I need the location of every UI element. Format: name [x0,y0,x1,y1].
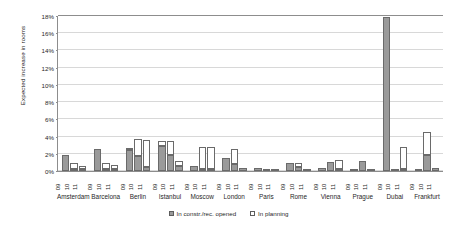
bar-segment-in-construction[interactable] [335,169,343,171]
bar-segment-in-planning[interactable] [143,140,151,167]
bar-segment-in-construction[interactable] [423,155,431,171]
bar-segment-in-construction[interactable] [70,169,78,171]
bar-stack[interactable] [175,17,183,171]
bar-stack[interactable] [190,17,198,171]
bar-stack[interactable] [432,17,440,171]
bar-segment-in-construction[interactable] [295,167,303,171]
bar-segment-in-planning[interactable] [400,147,408,169]
bar-segment-in-construction[interactable] [102,169,110,171]
legend: In constr./rec. openedIn planning [0,210,457,217]
bar-segment-in-construction[interactable] [239,168,247,171]
bar-stack[interactable] [134,17,142,171]
city-label: Prague [347,193,379,200]
city-label: Frankfurt [411,193,443,200]
bar-stack[interactable] [367,17,375,171]
city-label: London [218,193,250,200]
bar-stack[interactable] [383,17,391,171]
bar-stack[interactable] [400,17,408,171]
y-tick-label: 8% [45,99,54,106]
bar-stack[interactable] [239,17,247,171]
bar-segment-in-planning[interactable] [423,132,431,154]
bar-segment-in-construction[interactable] [111,169,119,171]
bar-segment-in-construction[interactable] [400,169,408,171]
bar-stack[interactable] [79,17,87,171]
bar-segment-in-construction[interactable] [62,155,70,171]
legend-item[interactable]: In constr./rec. opened [169,210,237,217]
bar-segment-in-construction[interactable] [167,155,175,171]
legend-item[interactable]: In planning [250,210,288,217]
bar-stack[interactable] [263,17,271,171]
bar-group [411,17,443,171]
bar-segment-in-construction[interactable] [143,167,151,171]
bar-segment-in-construction[interactable] [271,169,279,171]
bar-group [218,17,250,171]
bar-segment-in-construction[interactable] [222,158,230,171]
bar-stack[interactable] [70,17,78,171]
legend-label: In constr./rec. opened [177,210,237,217]
bar-segment-in-construction[interactable] [303,169,311,171]
bar-stack[interactable] [94,17,102,171]
bar-stack[interactable] [303,17,311,171]
bar-segment-in-construction[interactable] [391,169,399,171]
bar-segment-in-planning[interactable] [134,139,142,155]
bar-stack[interactable] [327,17,335,171]
bar-segment-in-planning[interactable] [207,147,215,169]
bar-stack[interactable] [286,17,294,171]
bar-segment-in-construction[interactable] [415,169,423,171]
bar-stack[interactable] [391,17,399,171]
bar-stack[interactable] [350,17,358,171]
bar-segment-in-planning[interactable] [167,141,175,155]
bar-segment-in-construction[interactable] [126,150,134,171]
bar-segment-in-construction[interactable] [318,168,326,171]
bar-stack[interactable] [62,17,70,171]
bar-segment-in-construction[interactable] [367,169,375,171]
bar-segment-in-planning[interactable] [199,147,207,169]
bar-segment-in-construction[interactable] [327,162,335,171]
bar-segment-in-construction[interactable] [286,163,294,171]
bar-group [154,17,186,171]
bar-segment-in-construction[interactable] [158,146,166,171]
bar-stack[interactable] [167,17,175,171]
bar-stack[interactable] [423,17,431,171]
bar-stack[interactable] [222,17,230,171]
bar-stack[interactable] [335,17,343,171]
bar-stack[interactable] [254,17,262,171]
bar-segment-in-construction[interactable] [207,169,215,171]
bar-segment-in-planning[interactable] [231,149,239,165]
bar-segment-in-construction[interactable] [94,149,102,171]
bar-group [186,17,218,171]
bar-segment-in-construction[interactable] [199,169,207,171]
bar-segment-in-construction[interactable] [263,169,271,171]
bar-segment-in-planning[interactable] [335,160,343,169]
bar-segment-in-construction[interactable] [350,169,358,171]
bar-stack[interactable] [143,17,151,171]
bar-stack[interactable] [231,17,239,171]
y-axis-title: Expected increase in rooms [19,0,26,136]
bar-segment-in-construction[interactable] [175,166,183,171]
bar-stack[interactable] [415,17,423,171]
bar-stack[interactable] [359,17,367,171]
bar-stack[interactable] [295,17,303,171]
bar-stack[interactable] [126,17,134,171]
bar-segment-in-construction[interactable] [254,168,262,171]
bar-segment-in-construction[interactable] [134,156,142,172]
bar-group [58,17,90,171]
bar-stack[interactable] [271,17,279,171]
bar-stack[interactable] [199,17,207,171]
legend-label: In planning [258,210,288,217]
bar-stack[interactable] [111,17,119,171]
bar-segment-in-construction[interactable] [79,169,87,171]
bar-segment-in-construction[interactable] [359,161,367,171]
bar-stack[interactable] [318,17,326,171]
bar-segment-in-construction[interactable] [383,17,391,171]
x-axis-category-labels: AmsterdamBarcelonaBerlinIstanbulMoscowLo… [57,193,443,200]
bar-segment-in-construction[interactable] [190,166,198,171]
bar-stack[interactable] [102,17,110,171]
y-tick-label: 4% [45,133,54,140]
bar-group [90,17,122,171]
bar-segment-in-construction[interactable] [231,164,239,171]
bar-stack[interactable] [158,17,166,171]
bar-stack[interactable] [207,17,215,171]
city-label: Paris [250,193,282,200]
bar-segment-in-construction[interactable] [432,168,440,171]
